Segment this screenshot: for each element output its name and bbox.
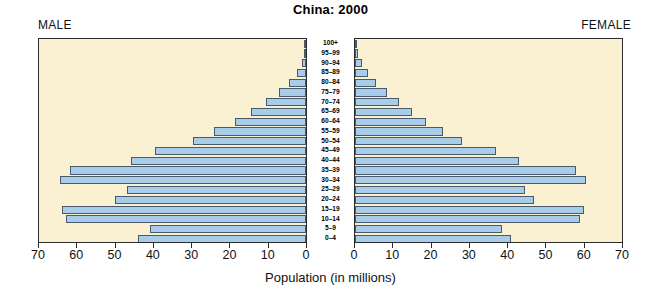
bar-male-10_14 (66, 215, 306, 223)
age-group-axis: 100+95–9990–9485–8980–8475–7970–7465–696… (307, 38, 354, 243)
x-tick-label: 40 (146, 248, 160, 262)
bar-row (39, 166, 306, 176)
bar-female-5_9 (355, 225, 502, 233)
bar-row (39, 185, 306, 195)
bar-row (355, 107, 622, 117)
bar-female-55_59 (355, 127, 443, 135)
bar-row (39, 224, 306, 234)
x-tick-label: 70 (31, 248, 45, 262)
bar-row (39, 39, 306, 49)
age-group-label: 100+ (307, 38, 354, 48)
x-tick-label: 10 (385, 248, 399, 262)
age-group-label: 15–19 (307, 204, 354, 214)
bar-male-100+ (304, 40, 306, 48)
x-tick-label: 20 (424, 248, 438, 262)
age-group-label: 5–9 (307, 223, 354, 233)
x-axis-title: Population (in millions) (0, 270, 661, 285)
bar-female-90_94 (355, 59, 362, 67)
bar-male-95_99 (304, 49, 306, 57)
age-group-label: 50–54 (307, 136, 354, 146)
bar-female-30_34 (355, 176, 586, 184)
bar-row (355, 185, 622, 195)
bar-row (355, 166, 622, 176)
bar-male-55_59 (214, 127, 306, 135)
x-tick-label: 0 (303, 248, 310, 262)
bar-row (39, 156, 306, 166)
bar-row (355, 59, 622, 69)
male-plot-area (38, 38, 307, 243)
bar-male-30_34 (60, 176, 306, 184)
bar-row (355, 68, 622, 78)
age-group-label: 35–39 (307, 165, 354, 175)
age-group-label: 65–69 (307, 106, 354, 116)
age-group-label: 40–44 (307, 155, 354, 165)
bar-row (39, 127, 306, 137)
bar-row (355, 98, 622, 108)
age-group-label: 45–49 (307, 145, 354, 155)
bar-male-80_84 (289, 79, 306, 87)
female-x-axis: 010203040506070 (354, 243, 623, 265)
bar-male-35_39 (70, 166, 306, 174)
bar-row (39, 234, 306, 243)
bar-male-20_24 (115, 196, 306, 204)
bar-row (355, 215, 622, 225)
bar-male-0_4 (138, 235, 306, 243)
bar-male-40_44 (131, 157, 306, 165)
bar-male-75_79 (279, 88, 306, 96)
bar-male-70_74 (266, 98, 306, 106)
x-tick-label: 40 (500, 248, 514, 262)
bar-row (355, 156, 622, 166)
age-group-label: 95–99 (307, 48, 354, 58)
female-plot-area (354, 38, 623, 243)
x-tick-label: 30 (462, 248, 476, 262)
x-tick-label: 30 (184, 248, 198, 262)
bar-female-80_84 (355, 79, 376, 87)
male-x-axis: 010203040506070 (38, 243, 307, 265)
bar-row (39, 117, 306, 127)
bar-female-95_99 (355, 49, 358, 57)
bar-row (39, 59, 306, 69)
bar-female-0_4 (355, 235, 511, 243)
bar-row (39, 107, 306, 117)
x-tick-label: 0 (351, 248, 358, 262)
bar-female-40_44 (355, 157, 519, 165)
age-group-label: 85–89 (307, 67, 354, 77)
bar-female-15_19 (355, 206, 584, 214)
bar-male-5_9 (150, 225, 306, 233)
male-panel-label: MALE (38, 18, 72, 32)
bar-row (39, 205, 306, 215)
bar-row (355, 205, 622, 215)
x-tick-label: 50 (538, 248, 552, 262)
bar-row (39, 68, 306, 78)
female-panel-label: FEMALE (581, 18, 631, 32)
age-group-label: 90–94 (307, 58, 354, 68)
x-tick-label: 50 (108, 248, 122, 262)
bar-row (355, 78, 622, 88)
age-group-label: 80–84 (307, 77, 354, 87)
x-tick-label: 10 (261, 248, 275, 262)
bar-male-65_69 (251, 108, 306, 116)
chart-title: China: 2000 (0, 2, 661, 17)
bar-female-20_24 (355, 196, 534, 204)
bar-female-70_74 (355, 98, 399, 106)
bar-male-60_64 (235, 118, 306, 126)
bar-female-35_39 (355, 166, 576, 174)
bar-row (355, 39, 622, 49)
age-group-label: 25–29 (307, 184, 354, 194)
bar-row (355, 176, 622, 186)
bar-row (39, 215, 306, 225)
bar-row (39, 195, 306, 205)
bar-male-90_94 (302, 59, 306, 67)
bar-male-50_54 (193, 137, 306, 145)
bar-female-50_54 (355, 137, 462, 145)
bar-female-45_49 (355, 147, 496, 155)
bar-row (39, 88, 306, 98)
bar-female-100+ (355, 40, 357, 48)
bar-female-60_64 (355, 118, 426, 126)
population-pyramid-chart: China: 2000 MALE FEMALE 100+95–9990–9485… (0, 0, 661, 302)
bar-row (39, 146, 306, 156)
bar-row (39, 98, 306, 108)
bar-row (355, 88, 622, 98)
age-group-label: 10–14 (307, 214, 354, 224)
bar-row (39, 78, 306, 88)
